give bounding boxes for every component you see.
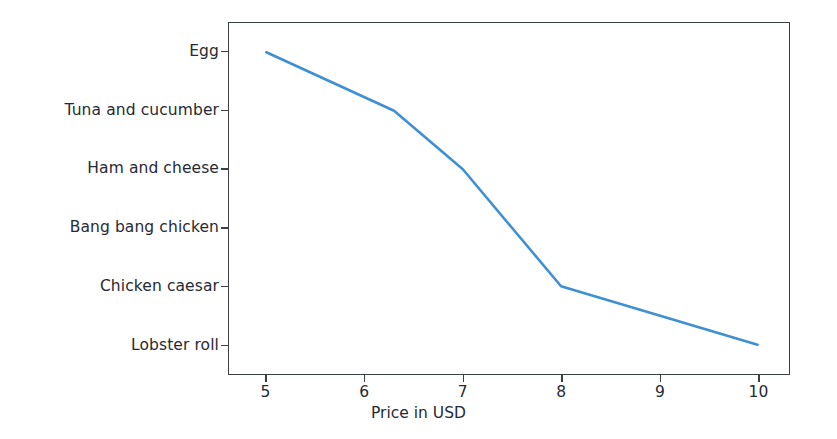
x-axis-tick-label: 7 bbox=[458, 385, 468, 401]
y-axis-tick-mark bbox=[221, 286, 228, 287]
x-axis-tick-mark bbox=[265, 375, 266, 382]
chart-figure: EggTuna and cucumberHam and cheeseBang b… bbox=[0, 0, 837, 439]
x-axis-tick-mark bbox=[364, 375, 365, 382]
y-axis-tick-mark bbox=[221, 227, 228, 228]
x-axis-label: Price in USD bbox=[0, 406, 837, 422]
y-axis-tick-label: Tuna and cucumber bbox=[64, 103, 228, 119]
y-axis-tick-mark bbox=[221, 110, 228, 111]
y-axis-tick-mark bbox=[221, 51, 228, 52]
plot-area bbox=[228, 22, 790, 375]
y-axis-tick-mark bbox=[221, 345, 228, 346]
x-axis-tick-mark bbox=[758, 375, 759, 382]
x-axis-tick-mark bbox=[660, 375, 661, 382]
y-axis-tick-label: Ham and cheese bbox=[87, 161, 228, 177]
x-axis-tick-label: 5 bbox=[261, 385, 271, 401]
y-axis-tick-label: Lobster roll bbox=[131, 338, 228, 354]
x-axis-tick-label: 10 bbox=[749, 385, 769, 401]
data-line-path bbox=[266, 52, 757, 344]
x-axis-tick-label: 9 bbox=[655, 385, 665, 401]
x-axis-tick-mark bbox=[561, 375, 562, 382]
x-axis-tick-mark bbox=[463, 375, 464, 382]
y-axis-tick-mark bbox=[221, 168, 228, 169]
x-axis-tick-label: 8 bbox=[556, 385, 566, 401]
x-axis-tick-label: 6 bbox=[359, 385, 369, 401]
y-axis-tick-label: Bang bang chicken bbox=[70, 220, 228, 236]
y-axis-tick-label: Chicken caesar bbox=[100, 279, 228, 295]
line-series bbox=[229, 23, 789, 374]
